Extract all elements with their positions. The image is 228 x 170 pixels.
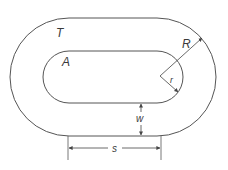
label-inner-radius: r — [170, 75, 174, 85]
outer-radius-line — [160, 38, 202, 76]
label-width: w — [136, 113, 144, 124]
stadium-diagram: T A R r w s — [0, 0, 228, 170]
label-length: s — [112, 143, 117, 154]
outer-boundary — [10, 18, 216, 136]
inner-radius-line — [160, 76, 178, 92]
label-inner-region: A — [61, 55, 70, 69]
label-outer-region: T — [56, 26, 65, 40]
label-outer-radius: R — [182, 37, 191, 51]
